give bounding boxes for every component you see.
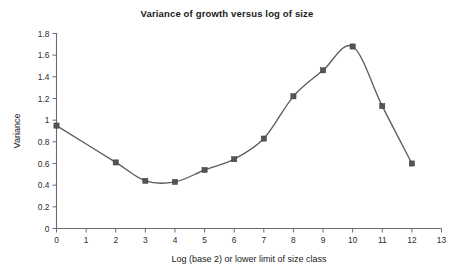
x-tick-label: 2 <box>113 235 118 245</box>
data-point-marker <box>409 161 414 166</box>
x-axis-title: Log (base 2) or lower limit of size clas… <box>171 254 327 264</box>
data-point-marker <box>232 157 237 162</box>
chart-figure: Variance of growth versus log of size 00… <box>0 0 454 280</box>
x-tick-label: 12 <box>407 235 417 245</box>
y-axis-title: Variance <box>12 114 22 149</box>
y-tick-label: 1.8 <box>38 29 50 39</box>
x-tick-label: 8 <box>291 235 296 245</box>
data-point-marker <box>350 44 355 49</box>
x-tick-label: 6 <box>232 235 237 245</box>
x-tick-label: 5 <box>202 235 207 245</box>
data-point-marker <box>291 94 296 99</box>
x-tick-label: 0 <box>54 235 59 245</box>
variance-series-line <box>57 45 412 183</box>
y-tick-label: 0.6 <box>38 159 50 169</box>
data-point-marker <box>320 68 325 73</box>
y-tick-label: 0.2 <box>38 202 50 212</box>
data-point-marker <box>202 167 207 172</box>
y-tick-label: 1 <box>45 115 50 125</box>
x-tick-label: 1 <box>84 235 89 245</box>
y-tick-label: 0.4 <box>38 180 50 190</box>
x-tick-label: 10 <box>348 235 358 245</box>
y-axis-ticks: 00.20.40.60.811.21.41.61.8 <box>38 29 57 234</box>
x-axis-ticks: 012345678910111213 <box>54 229 446 245</box>
data-point-marker <box>143 178 148 183</box>
data-point-marker <box>261 136 266 141</box>
x-tick-label: 9 <box>321 235 326 245</box>
y-tick-label: 0 <box>45 224 50 234</box>
x-tick-label: 3 <box>143 235 148 245</box>
x-tick-label: 11 <box>378 235 387 245</box>
data-point-marker <box>113 160 118 165</box>
line-chart-plot: 00.20.40.60.811.21.41.61.8 0123456789101… <box>0 0 454 280</box>
x-tick-label: 4 <box>173 235 178 245</box>
x-tick-label: 7 <box>261 235 266 245</box>
data-point-marker <box>380 103 385 108</box>
data-point-marker <box>172 179 177 184</box>
y-tick-label: 1.6 <box>38 50 50 60</box>
x-tick-label: 13 <box>437 235 447 245</box>
y-tick-label: 1.2 <box>38 94 50 104</box>
y-tick-label: 0.8 <box>38 137 50 147</box>
y-tick-label: 1.4 <box>38 72 50 82</box>
variance-series-markers <box>54 44 415 185</box>
data-point-marker <box>54 123 59 128</box>
